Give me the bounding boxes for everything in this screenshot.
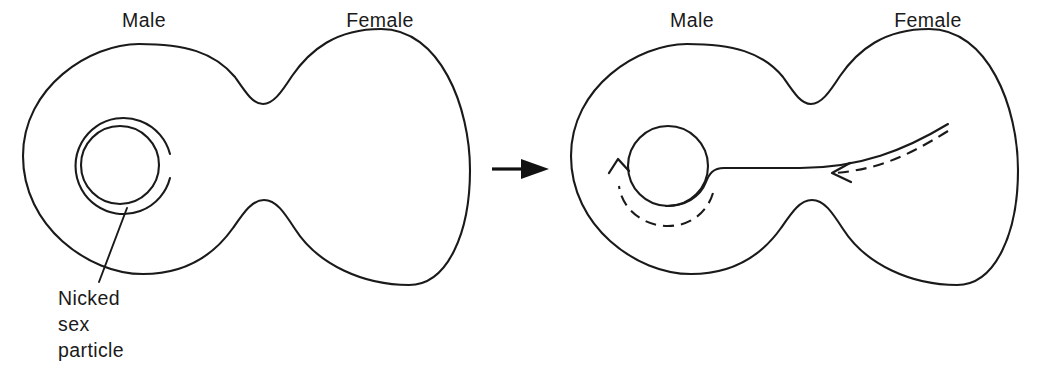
sex-particle-rolling-circle	[628, 126, 708, 206]
diagram-canvas: Male Female Nicked sex particle	[0, 0, 1039, 371]
label-female-after: Female	[894, 9, 961, 31]
panel-during-transfer: Male Female	[571, 9, 1018, 285]
sex-particle-inner-strand	[81, 126, 159, 204]
conjugation-diagram: Male Female Nicked sex particle	[0, 0, 1039, 371]
panel-before-transfer: Male Female Nicked sex particle	[23, 9, 470, 361]
callout-line-1: Nicked	[58, 287, 120, 309]
conjugating-pair-outline-after	[571, 29, 1018, 285]
sex-particle-outer-strand-nicked	[76, 118, 170, 214]
label-male-before: Male	[122, 9, 166, 31]
transition-arrow-head	[521, 159, 549, 179]
callout-line-2: sex	[58, 313, 90, 335]
callout-leader-line	[99, 208, 127, 282]
transition-arrow	[492, 159, 549, 179]
conjugating-pair-outline-before	[23, 29, 470, 285]
rolling-circle-arrowhead	[609, 159, 629, 173]
label-male-after: Male	[670, 9, 714, 31]
callout-line-3: particle	[58, 339, 124, 361]
label-female-before: Female	[346, 9, 413, 31]
